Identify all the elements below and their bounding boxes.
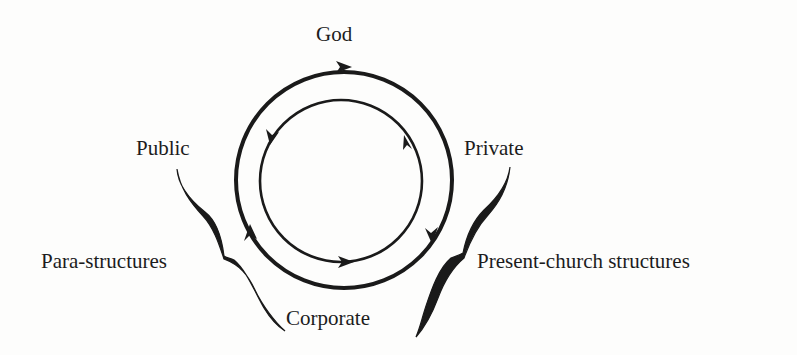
outer-cycle (236, 61, 452, 288)
label-present-church-structures: Present-church structures (477, 251, 690, 272)
label-para-structures: Para-structures (41, 251, 167, 272)
label-god: God (316, 24, 352, 45)
inner-cycle (260, 100, 422, 268)
label-private: Private (464, 138, 523, 159)
left-brace-icon (177, 169, 285, 331)
diagram-graphic (0, 0, 797, 355)
label-public: Public (136, 138, 190, 159)
label-corporate: Corporate (286, 308, 370, 329)
cycle-diagram: God Public Private Para-structures Prese… (0, 0, 797, 355)
